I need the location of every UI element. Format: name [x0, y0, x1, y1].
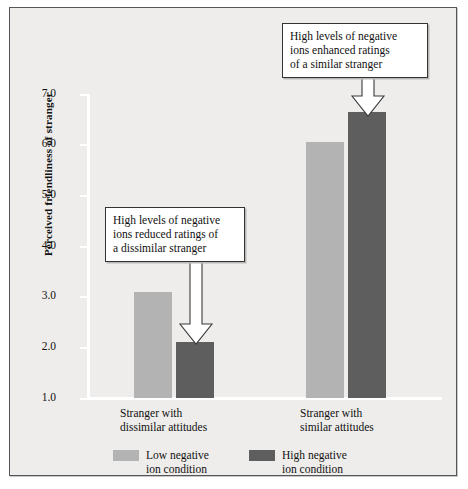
category-similar-line1: Stranger with: [300, 406, 374, 420]
y-tick-label-7: 7.0: [16, 88, 56, 100]
y-tick-2: [80, 347, 89, 349]
callout-left-line2: ions reduced ratings of: [113, 227, 237, 241]
callout-right: High levels of negative ions enhanced ra…: [282, 23, 428, 78]
y-tick-7: [80, 94, 89, 96]
legend-swatch-high: [249, 450, 275, 461]
legend-low-line2: ion condition: [146, 462, 209, 476]
callout-left-line1: High levels of negative: [113, 213, 237, 227]
y-tick-1: [80, 398, 89, 400]
legend-item-high: High negative ion condition: [249, 448, 347, 476]
legend-label-high: High negative ion condition: [282, 448, 347, 476]
legend-low-line1: Low negative: [146, 448, 209, 462]
bar-dissimilar-high: [176, 342, 214, 398]
bar-dissimilar-low: [134, 292, 172, 398]
y-tick-label-4: 4.0: [16, 240, 56, 252]
plot-area: Perceived friendliness of stranger 7.0 6…: [10, 8, 458, 477]
category-label-dissimilar: Stranger with dissimilar attitudes: [120, 406, 207, 435]
y-tick-3: [80, 296, 89, 298]
y-tick-label-2: 2.0: [16, 341, 56, 353]
y-tick-label-5: 5.0: [16, 189, 56, 201]
legend-swatch-low: [113, 450, 139, 461]
callout-arrow-left: [178, 260, 214, 350]
callout-right-line1: High levels of negative: [290, 29, 420, 43]
chart-panel: Perceived friendliness of stranger 7.0 6…: [9, 7, 457, 476]
legend-high-line2: ion condition: [282, 462, 347, 476]
y-tick-label-3: 3.0: [16, 290, 56, 302]
category-label-similar: Stranger with similar attitudes: [300, 406, 374, 435]
callout-arrow-right: [350, 78, 386, 122]
y-tick-label-1: 1.0: [16, 392, 56, 404]
category-dissimilar-line2: dissimilar attitudes: [120, 420, 207, 434]
callout-right-line3: of a similar stranger: [290, 57, 420, 71]
category-similar-line2: similar attitudes: [300, 420, 374, 434]
callout-left-line3: a dissimilar stranger: [113, 241, 237, 255]
bar-similar-high: [348, 112, 386, 398]
callout-left: High levels of negative ions reduced rat…: [105, 207, 245, 262]
callout-right-line2: ions enhanced ratings: [290, 43, 420, 57]
legend-high-line1: High negative: [282, 448, 347, 462]
bar-similar-low: [306, 142, 344, 398]
y-tick-label-6: 6.0: [16, 138, 56, 150]
y-tick-4: [80, 246, 89, 248]
legend-item-low: Low negative ion condition: [113, 448, 209, 476]
legend-label-low: Low negative ion condition: [146, 448, 209, 476]
y-tick-6: [80, 144, 89, 146]
category-dissimilar-line1: Stranger with: [120, 406, 207, 420]
legend: Low negative ion condition High negative…: [10, 448, 458, 482]
y-tick-5: [80, 195, 89, 197]
